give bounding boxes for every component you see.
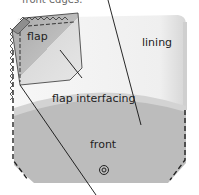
lining-edge-shadow xyxy=(183,22,187,110)
flap-label: flap xyxy=(27,31,48,42)
flap-interfacing-label: flap interfacing xyxy=(52,93,135,104)
flap-zigzag-left xyxy=(10,28,13,100)
front-label: front xyxy=(90,139,116,150)
lining-label: lining xyxy=(142,37,172,48)
